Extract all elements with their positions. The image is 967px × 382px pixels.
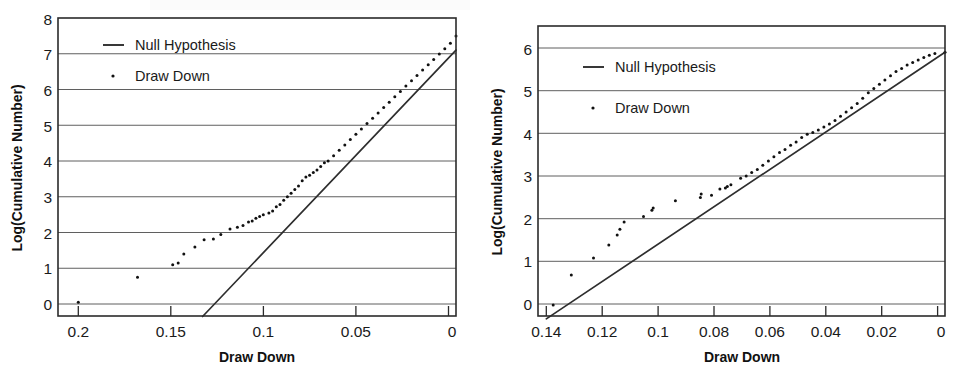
legend-item-draw-down: Draw Down bbox=[591, 100, 690, 116]
x-tick-label: 0.2 bbox=[68, 323, 90, 340]
y-tick-label: 4 bbox=[523, 126, 532, 143]
draw-down-scatter-right bbox=[552, 51, 947, 307]
legend-label: Draw Down bbox=[135, 68, 210, 84]
y-tick-label: 1 bbox=[43, 260, 52, 277]
chart-svg-right: Log(Cumulative Number) 0 1 2 3 4 5 6 bbox=[480, 0, 967, 382]
x-axis-label-right: Draw Down bbox=[704, 349, 780, 365]
y-tick-label: 2 bbox=[523, 211, 532, 228]
legend-item-draw-down: Draw Down bbox=[111, 68, 210, 84]
y-tick-label: 0 bbox=[43, 296, 52, 313]
null-hypothesis-line-left bbox=[203, 50, 456, 316]
legend-label: Null Hypothesis bbox=[615, 59, 716, 75]
y-tick-label: 3 bbox=[523, 168, 532, 185]
y-tick-label: 6 bbox=[523, 41, 532, 58]
legend-item-null-hypothesis: Null Hypothesis bbox=[103, 37, 236, 53]
x-tick-label: 0.06 bbox=[755, 323, 785, 340]
x-tick-label: 0.08 bbox=[699, 323, 729, 340]
legend-label: Draw Down bbox=[615, 100, 690, 116]
x-tick-label: 0.12 bbox=[587, 323, 617, 340]
x-tick-labels-left: 0.2 0.15 0.1 0.05 0 bbox=[68, 323, 457, 340]
x-tickmarks-right bbox=[546, 306, 937, 316]
x-tick-label: 0.14 bbox=[531, 323, 562, 340]
null-hypothesis-line-right bbox=[546, 52, 945, 319]
figure-root: Log(Cumulative Number) 0 1 2 3 4 5 6 7 8 bbox=[0, 0, 967, 382]
x-tick-labels-right: 0.14 0.12 0.1 0.08 0.06 0.04 0.02 0 bbox=[531, 323, 945, 340]
dot-marker-icon bbox=[111, 74, 114, 77]
dot-marker-icon bbox=[591, 106, 594, 109]
y-tick-labels-left: 0 1 2 3 4 5 6 7 8 bbox=[43, 11, 52, 313]
y-axis-label-left: Log(Cumulative Number) bbox=[9, 84, 25, 251]
legend-item-null-hypothesis: Null Hypothesis bbox=[583, 59, 716, 75]
chart-panel-left: Log(Cumulative Number) 0 1 2 3 4 5 6 7 8 bbox=[0, 0, 480, 382]
x-tick-label: 0 bbox=[448, 323, 457, 340]
y-tick-label: 5 bbox=[43, 118, 52, 135]
draw-down-scatter-left bbox=[77, 35, 458, 304]
x-tickmarks-left bbox=[78, 306, 448, 316]
chart-svg-left: Log(Cumulative Number) 0 1 2 3 4 5 6 7 8 bbox=[0, 0, 480, 382]
x-axis-label-left: Draw Down bbox=[219, 349, 295, 365]
gridlines-right bbox=[538, 48, 945, 304]
gridlines-left bbox=[58, 54, 456, 304]
scan-artifact bbox=[150, 0, 470, 10]
y-tick-label: 6 bbox=[43, 82, 52, 99]
y-tick-label: 8 bbox=[43, 11, 52, 28]
y-tick-label: 4 bbox=[43, 153, 52, 170]
x-tick-label: 0 bbox=[937, 323, 946, 340]
y-tick-label: 7 bbox=[43, 46, 52, 63]
y-axis-label-right: Log(Cumulative Number) bbox=[489, 88, 505, 255]
x-tick-label: 0.15 bbox=[156, 323, 186, 340]
chart-panel-right: Log(Cumulative Number) 0 1 2 3 4 5 6 bbox=[480, 0, 967, 382]
y-tick-label: 2 bbox=[43, 225, 52, 242]
legend-label: Null Hypothesis bbox=[135, 37, 236, 53]
y-tick-label: 0 bbox=[523, 296, 532, 313]
x-tick-label: 0.1 bbox=[647, 323, 669, 340]
plot-frame-left bbox=[58, 18, 456, 316]
y-tick-label: 3 bbox=[43, 189, 52, 206]
y-tick-label: 1 bbox=[523, 253, 532, 270]
legend-right: Null Hypothesis Draw Down bbox=[583, 59, 716, 116]
plot-frame-right bbox=[538, 26, 945, 316]
legend-left: Null Hypothesis Draw Down bbox=[103, 37, 236, 84]
x-tick-label: 0.04 bbox=[811, 323, 842, 340]
x-tick-label: 0.1 bbox=[253, 323, 275, 340]
y-tick-label: 5 bbox=[523, 83, 532, 100]
x-tick-label: 0.02 bbox=[867, 323, 897, 340]
y-tick-labels-right: 0 1 2 3 4 5 6 bbox=[523, 41, 532, 313]
x-tick-label: 0.05 bbox=[341, 323, 371, 340]
